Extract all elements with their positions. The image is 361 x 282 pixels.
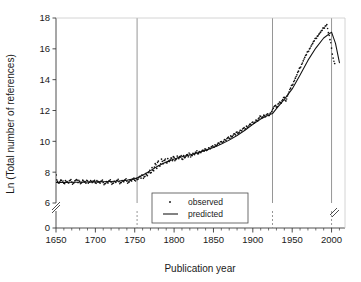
observed-point: [294, 80, 296, 82]
x-tick-label-1950: 1950: [282, 234, 303, 245]
observed-point: [243, 127, 245, 129]
observed-point: [320, 31, 322, 33]
observed-point: [158, 160, 160, 162]
observed-point: [153, 170, 155, 172]
observed-point: [232, 135, 234, 137]
observed-point: [166, 162, 168, 164]
x-tick-label-1700: 1700: [85, 234, 106, 245]
observed-point: [154, 166, 156, 168]
observed-point: [73, 182, 75, 184]
observed-point: [282, 99, 284, 101]
chart-legend: observed predicted: [152, 193, 248, 223]
observed-point: [180, 155, 182, 157]
observed-point: [245, 128, 247, 130]
observed-point: [115, 181, 117, 183]
y-axis-title: Ln (Total number of references): [5, 54, 16, 194]
observed-point: [328, 35, 330, 37]
observed-point: [195, 152, 197, 154]
observed-point: [89, 181, 91, 183]
observed-point: [59, 181, 61, 183]
observed-point: [183, 155, 185, 157]
observed-point: [250, 124, 252, 126]
y-tick-label-18: 18: [39, 12, 50, 23]
observed-point: [302, 62, 304, 64]
observed-point: [190, 156, 192, 158]
x-tick-label-1650: 1650: [45, 234, 66, 245]
observed-point: [300, 66, 302, 68]
observed-point: [334, 63, 336, 65]
observed-point: [58, 182, 60, 184]
observed-point: [161, 161, 163, 163]
observed-point: [331, 47, 333, 49]
observed-point: [328, 32, 330, 34]
observed-point: [81, 182, 83, 184]
observed-point: [172, 160, 174, 162]
observed-point: [173, 157, 175, 159]
observed-point: [321, 29, 323, 31]
observed-point: [332, 53, 334, 55]
observed-point: [294, 77, 296, 79]
observed-point: [212, 145, 214, 147]
observed-point: [165, 158, 167, 160]
observed-point: [113, 182, 115, 184]
observed-point: [126, 180, 128, 182]
observed-point: [162, 163, 164, 165]
observed-point: [329, 39, 331, 41]
observed-point: [105, 183, 107, 185]
observed-point: [332, 57, 334, 59]
observed-point: [333, 61, 335, 63]
y-tick-label-8: 8: [45, 167, 50, 178]
observed-point: [70, 179, 72, 181]
observed-point: [276, 106, 278, 108]
observed-point: [313, 40, 315, 42]
observed-point: [298, 70, 300, 72]
x-tick-label-1750: 1750: [124, 234, 145, 245]
observed-point: [285, 100, 287, 102]
observed-point: [102, 179, 104, 181]
legend-observed-dot-icon: [169, 201, 171, 203]
observed-point: [68, 182, 70, 184]
observed-point: [252, 121, 254, 123]
y-tick-label-10: 10: [39, 136, 50, 147]
observed-point: [220, 141, 222, 143]
observed-point: [225, 140, 227, 142]
observed-point: [128, 181, 130, 183]
observed-point: [148, 171, 150, 173]
observed-point: [91, 182, 93, 184]
observed-point: [65, 180, 67, 182]
observed-point: [96, 180, 98, 182]
observed-point: [61, 180, 63, 182]
observed-point: [229, 138, 231, 140]
observed-point: [62, 180, 64, 182]
observed-point: [171, 157, 173, 159]
observed-point: [77, 182, 79, 184]
observed-point: [131, 180, 133, 182]
observed-point: [139, 176, 141, 178]
observed-point: [287, 95, 289, 97]
observed-point: [182, 159, 184, 161]
observed-point: [169, 159, 171, 161]
observed-point: [232, 136, 234, 138]
observed-point: [146, 175, 148, 177]
observed-point: [95, 183, 97, 185]
observed-point: [118, 181, 120, 183]
observed-point: [191, 155, 193, 157]
observed-point: [324, 27, 326, 29]
observed-point: [209, 148, 211, 150]
observed-point: [254, 121, 256, 123]
observed-point: [198, 153, 200, 155]
observed-point: [176, 158, 178, 160]
observed-point: [203, 150, 205, 152]
observed-point: [228, 136, 230, 138]
observed-point: [272, 109, 274, 111]
observed-point: [160, 163, 162, 165]
observed-point: [327, 28, 329, 30]
observed-point: [265, 116, 267, 118]
y-tick-label-14: 14: [39, 74, 50, 85]
observed-point: [317, 35, 319, 37]
observed-point: [260, 116, 262, 118]
observed-point: [290, 87, 292, 89]
y-tick-label-0: 0: [45, 222, 50, 233]
observed-point: [316, 38, 318, 40]
observed-point: [272, 107, 274, 109]
